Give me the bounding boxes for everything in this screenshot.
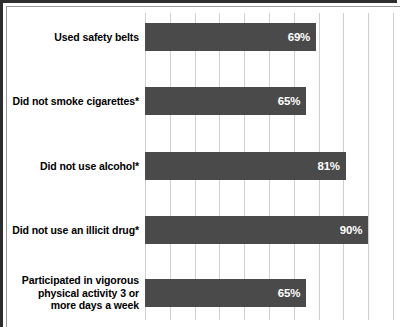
bar-row: Participated in vigorousphysical activit… [3, 262, 400, 326]
bar-row: Did not use alcohol*81% [3, 142, 400, 206]
bar: 65% [145, 87, 306, 115]
bar-row: Did not smoke cigarettes*65% [3, 77, 400, 141]
bar-value-label: 69% [288, 31, 310, 43]
bar-value-label: 81% [317, 160, 339, 172]
bar-category-label-line: Did not use an illicit drug* [9, 224, 139, 237]
bar-value-label: 90% [340, 224, 362, 236]
bar-category-label: Used safety belts [9, 31, 139, 44]
bar-category-label-line: more days a week [9, 299, 139, 312]
bar-category-label: Did not use an illicit drug* [9, 224, 139, 237]
bar-category-label-line: Used safety belts [9, 31, 139, 44]
bar-category-label-line: Participated in vigorous [9, 274, 139, 287]
bar-row: Used safety belts69% [3, 13, 400, 77]
bar: 81% [145, 152, 346, 180]
bar-category-label: Did not smoke cigarettes* [9, 95, 139, 108]
bar-category-label: Participated in vigorousphysical activit… [9, 274, 139, 312]
bar: 90% [145, 216, 368, 244]
bar-category-label: Did not use alcohol* [9, 160, 139, 173]
bar-value-label: 65% [278, 287, 300, 299]
bar: 65% [145, 279, 306, 307]
bar-row: Did not use an illicit drug*90% [3, 206, 400, 270]
bar-category-label-line: physical activity 3 or [9, 287, 139, 300]
bar: 69% [145, 23, 316, 51]
bar-category-label-line: Did not smoke cigarettes* [9, 95, 139, 108]
bar-value-label: 65% [278, 95, 300, 107]
bar-category-label-line: Did not use alcohol* [9, 160, 139, 173]
